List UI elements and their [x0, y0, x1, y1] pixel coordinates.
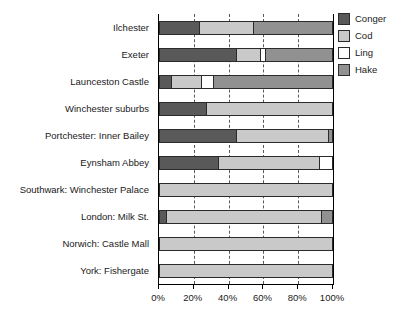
legend-item: Hake — [338, 62, 404, 77]
stacked-bar-chart: IlchesterExeterLaunceston CastleWinchest… — [0, 0, 406, 322]
y-axis-label: Ilchester — [113, 23, 149, 33]
x-tick — [228, 284, 229, 289]
bar-segment — [159, 210, 166, 224]
y-axis-label: Winchester suburbs — [65, 104, 149, 114]
bar-row — [159, 264, 333, 278]
bar-row — [159, 183, 333, 197]
y-axis-category-labels: IlchesterExeterLaunceston CastleWinchest… — [0, 14, 153, 284]
bar-row — [159, 21, 333, 35]
x-tick-label: 20% — [183, 292, 202, 303]
bar-segment — [159, 75, 171, 89]
x-tick-label: 0% — [151, 292, 165, 303]
bar-segment — [206, 102, 333, 116]
y-axis-label: Southwark: Winchester Palace — [20, 185, 149, 195]
x-tick — [262, 284, 263, 289]
bar-segment — [159, 129, 236, 143]
bar-row — [159, 48, 333, 62]
bar-segment — [236, 48, 260, 62]
y-axis-label: Eynsham Abbey — [80, 158, 149, 168]
bar-segment — [199, 21, 253, 35]
x-tick-label: 80% — [288, 292, 307, 303]
bar-segment — [159, 264, 333, 278]
bar-segment — [328, 129, 333, 143]
bar-row — [159, 210, 333, 224]
bar-segment — [159, 102, 206, 116]
plot-area — [158, 14, 334, 284]
x-tick — [332, 284, 333, 289]
bar-row — [159, 129, 333, 143]
bar-segment — [265, 48, 333, 62]
y-axis-label: Portchester: Inner Bailey — [45, 131, 149, 141]
bar-segment — [159, 48, 236, 62]
bar-segment — [159, 237, 333, 251]
y-axis-label: London: Milk St. — [81, 212, 149, 222]
bar-row — [159, 102, 333, 116]
legend-label: Hake — [355, 65, 377, 75]
x-tick-label: 40% — [218, 292, 237, 303]
bar-row — [159, 237, 333, 251]
legend-item: Cod — [338, 28, 404, 43]
y-axis-label: Exeter — [122, 50, 149, 60]
legend-swatch-icon — [338, 13, 350, 25]
y-axis-label: Launceston Castle — [70, 77, 149, 87]
bar-segment — [159, 21, 199, 35]
legend-label: Conger — [355, 14, 386, 24]
bar-segment — [166, 210, 321, 224]
plot-inner — [159, 14, 333, 284]
x-axis-line — [158, 284, 334, 285]
bar-row — [159, 156, 333, 170]
legend-item: Conger — [338, 11, 404, 26]
legend-label: Cod — [355, 31, 372, 41]
bar-segment — [213, 75, 333, 89]
chart-legend: CongerCodLingHake — [338, 11, 404, 79]
bar-segment — [201, 75, 213, 89]
bar-row — [159, 75, 333, 89]
legend-label: Ling — [355, 48, 373, 58]
bar-segment — [159, 156, 218, 170]
bar-segment — [218, 156, 319, 170]
bar-segment — [321, 210, 333, 224]
x-tick — [297, 284, 298, 289]
bar-segment — [319, 156, 333, 170]
y-axis-label: Norwich: Castle Mall — [62, 239, 149, 249]
legend-swatch-icon — [338, 47, 350, 59]
bar-segment — [159, 183, 333, 197]
x-tick — [158, 284, 159, 289]
bar-segment — [253, 21, 333, 35]
y-axis-label: York: Fishergate — [80, 266, 149, 276]
bar-segment — [236, 129, 328, 143]
legend-swatch-icon — [338, 64, 350, 76]
legend-item: Ling — [338, 45, 404, 60]
x-tick-label: 100% — [320, 292, 344, 303]
legend-swatch-icon — [338, 30, 350, 42]
x-tick-label: 60% — [253, 292, 272, 303]
bar-segment — [171, 75, 201, 89]
x-tick — [193, 284, 194, 289]
